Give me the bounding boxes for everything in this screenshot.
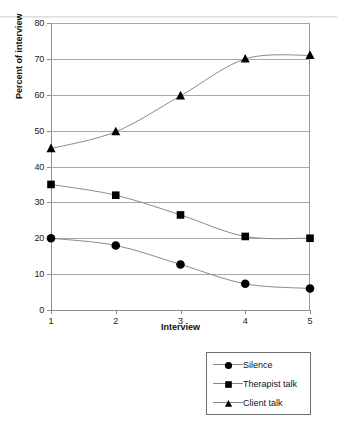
x-axis-title: Interview <box>51 322 310 332</box>
y-tick-label: 70 <box>34 54 44 63</box>
data-point-marker <box>306 50 315 59</box>
y-tick-label: 10 <box>34 270 44 279</box>
data-point-marker <box>47 181 55 189</box>
y-tick-label: 30 <box>34 198 44 207</box>
x-tick-mark <box>51 310 52 314</box>
data-point-marker <box>112 191 120 199</box>
data-point-marker <box>241 280 250 289</box>
y-tick-label: 0 <box>39 306 44 315</box>
series-line <box>51 55 310 149</box>
legend-label: Client talk <box>243 399 283 408</box>
data-point-marker <box>306 234 314 242</box>
data-point-marker <box>241 233 249 241</box>
series-silence <box>47 234 315 293</box>
y-tick-label: 60 <box>34 90 44 99</box>
y-axis-title: Percent of interview <box>14 0 24 99</box>
x-tick-mark <box>310 310 311 314</box>
legend-label: Therapist talk <box>243 380 297 389</box>
x-tick-mark <box>116 310 117 314</box>
y-tick-label: 20 <box>34 234 44 243</box>
data-point-marker <box>111 241 120 250</box>
series-therapist-talk <box>47 181 314 242</box>
data-point-marker <box>47 234 56 243</box>
x-tick-mark <box>181 310 182 314</box>
legend-item-silence: Silence <box>207 356 310 374</box>
y-tick-label: 50 <box>34 126 44 135</box>
legend-item-client-talk: Client talk <box>207 394 310 412</box>
chart-figure: Percent of interview 01020304050607080 1… <box>0 0 337 435</box>
y-tick-label: 40 <box>34 162 44 171</box>
data-point-marker <box>111 127 120 136</box>
circle-marker-icon <box>213 358 243 372</box>
y-axis-title-label: Percent of interview <box>14 13 24 99</box>
data-point-marker <box>177 211 185 219</box>
legend-label: Silence <box>243 361 273 370</box>
data-point-marker <box>306 284 315 293</box>
plot-area: 01020304050607080 12345 <box>51 23 310 310</box>
data-point-marker <box>176 260 185 269</box>
legend-item-therapist-talk: Therapist talk <box>207 375 310 393</box>
x-tick-mark <box>245 310 246 314</box>
triangle-marker-icon <box>213 396 243 410</box>
series-client-talk <box>47 50 315 152</box>
scan-artifact-line-secondary <box>0 17 337 18</box>
chart-legend: Silence Therapist talk Client talk <box>206 352 311 415</box>
data-series-layer <box>51 23 310 310</box>
y-tick-label: 80 <box>34 19 44 28</box>
data-point-marker <box>176 91 185 100</box>
square-marker-icon <box>213 377 243 391</box>
